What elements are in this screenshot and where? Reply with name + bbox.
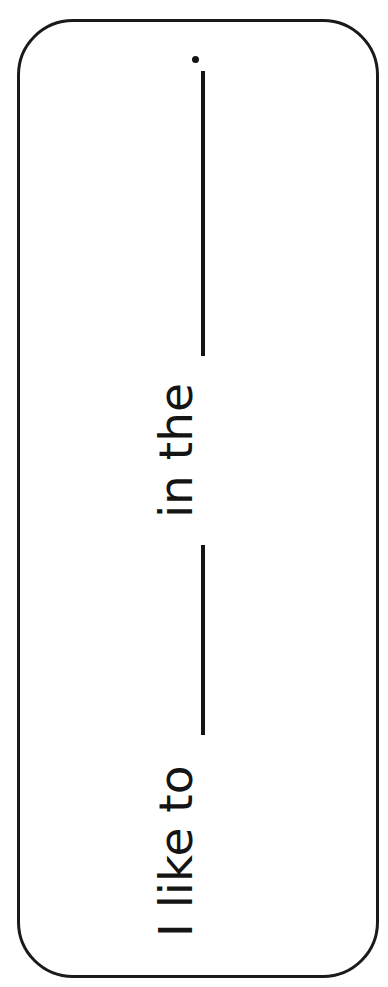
period-mark	[192, 56, 199, 63]
blank-line-2[interactable]	[201, 71, 205, 356]
text-in-the: in the	[152, 383, 199, 518]
sentence-strip: I like to in the	[0, 0, 388, 987]
text-i-like-to: I like to	[152, 766, 199, 938]
blank-line-1[interactable]	[201, 545, 205, 735]
